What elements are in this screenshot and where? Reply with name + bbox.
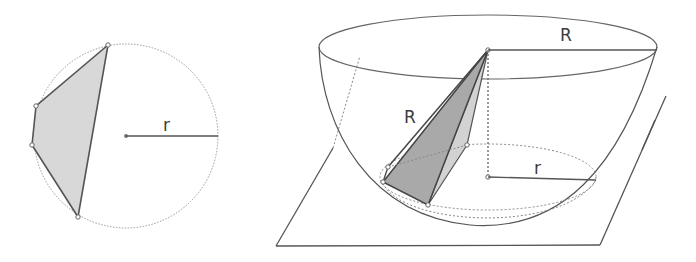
radius-label-r: r <box>163 115 170 135</box>
pyramid-front-face <box>383 50 488 205</box>
inscribed-polygon <box>32 45 108 217</box>
slant-radius-label-R: R <box>404 107 416 127</box>
section-radius-line <box>488 177 596 180</box>
plane-right-edge <box>600 96 666 245</box>
sphere-radius-label-R: R <box>560 25 572 45</box>
plane-right-edge-upper <box>642 120 655 150</box>
left-circle-figure: r <box>30 43 218 228</box>
hemisphere-outline <box>319 47 657 226</box>
plane-bottom-edge <box>276 245 600 246</box>
plane-left-edge-hidden <box>333 56 360 148</box>
section-radius-label-r: r <box>534 158 541 178</box>
hemisphere-rim <box>319 15 657 79</box>
geometry-figure: r R <box>0 0 696 262</box>
right-hemisphere-figure: R r R <box>0 0 666 246</box>
plane-left-edge <box>276 148 333 246</box>
